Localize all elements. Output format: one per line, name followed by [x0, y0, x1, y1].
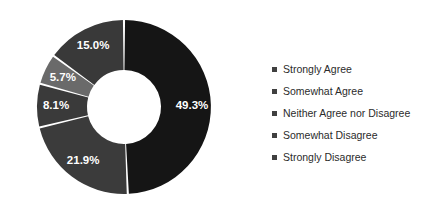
slice-data-label: 49.3%	[176, 99, 209, 111]
legend-marker-icon	[272, 111, 277, 116]
slice-data-label: 5.7%	[50, 71, 76, 83]
legend-item-label: Strongly Agree	[283, 64, 352, 75]
donut-svg: 49.3%21.9%8.1%5.7%15.0%	[0, 0, 250, 215]
legend-item-label: Strongly Disagree	[283, 152, 366, 163]
chart-legend: Strongly AgreeSomewhat AgreeNeither Agre…	[272, 58, 443, 168]
legend-item[interactable]: Somewhat Agree	[272, 80, 443, 102]
legend-marker-icon	[272, 67, 277, 72]
legend-marker-icon	[272, 89, 277, 94]
legend-marker-icon	[272, 133, 277, 138]
legend-item[interactable]: Strongly Agree	[272, 58, 443, 80]
donut-chart-figure: 49.3%21.9%8.1%5.7%15.0% Strongly AgreeSo…	[0, 0, 443, 215]
legend-item[interactable]: Strongly Disagree	[272, 146, 443, 168]
slice-data-label: 15.0%	[77, 39, 110, 51]
legend-item-label: Neither Agree nor Disagree	[283, 108, 410, 119]
legend-marker-icon	[272, 155, 277, 160]
slice-data-label: 8.1%	[43, 99, 69, 111]
slice-data-label: 21.9%	[67, 154, 100, 166]
legend-item[interactable]: Neither Agree nor Disagree	[272, 102, 443, 124]
donut-plot-area: 49.3%21.9%8.1%5.7%15.0%	[0, 0, 250, 215]
legend-item-label: Somewhat Agree	[283, 86, 363, 97]
legend-item-label: Somewhat Disagree	[283, 130, 378, 141]
legend-item[interactable]: Somewhat Disagree	[272, 124, 443, 146]
